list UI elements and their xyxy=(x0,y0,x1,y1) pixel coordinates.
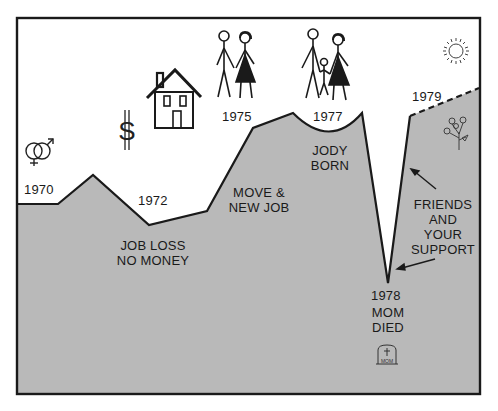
svg-text:MOM: MOM xyxy=(381,358,393,364)
caption-line: MOVE & xyxy=(226,185,292,200)
caption-line: NO MONEY xyxy=(108,253,198,268)
couple-icon xyxy=(217,31,255,98)
year-1978-label: 1978 xyxy=(371,288,401,303)
gender-symbols-icon xyxy=(26,139,53,166)
caption-job-loss: JOB LOSS NO MONEY xyxy=(108,238,198,268)
caption-line: YOUR xyxy=(406,227,480,242)
year-1970-label: 1970 xyxy=(24,182,54,197)
house-icon xyxy=(147,70,201,128)
caption-line: BORN xyxy=(306,158,354,173)
caption-line: SUPPORT xyxy=(406,242,480,257)
caption-move-new-job: MOVE & NEW JOB xyxy=(226,185,292,215)
caption-line: JODY xyxy=(306,143,354,158)
life-line-diagram: S xyxy=(0,0,498,411)
family-icon xyxy=(302,29,349,100)
caption-jody-born: JODY BORN xyxy=(306,143,354,173)
year-1972-label: 1972 xyxy=(138,193,168,208)
caption-line: FRIENDS xyxy=(406,197,480,212)
dollar-sign-icon: S xyxy=(118,110,135,150)
year-1975-label: 1975 xyxy=(222,109,252,124)
caption-line: AND xyxy=(406,212,480,227)
caption-mom-died: MOM DIED xyxy=(366,305,410,335)
sun-icon xyxy=(443,38,469,64)
caption-friends-support: FRIENDS AND YOUR SUPPORT xyxy=(406,197,480,257)
caption-line: JOB LOSS xyxy=(108,238,198,253)
caption-line: NEW JOB xyxy=(226,200,292,215)
caption-line: MOM xyxy=(366,305,410,320)
svg-text:S: S xyxy=(118,116,135,146)
year-1977-label: 1977 xyxy=(313,109,343,124)
year-1979-label: 1979 xyxy=(412,89,442,104)
caption-line: DIED xyxy=(366,320,410,335)
